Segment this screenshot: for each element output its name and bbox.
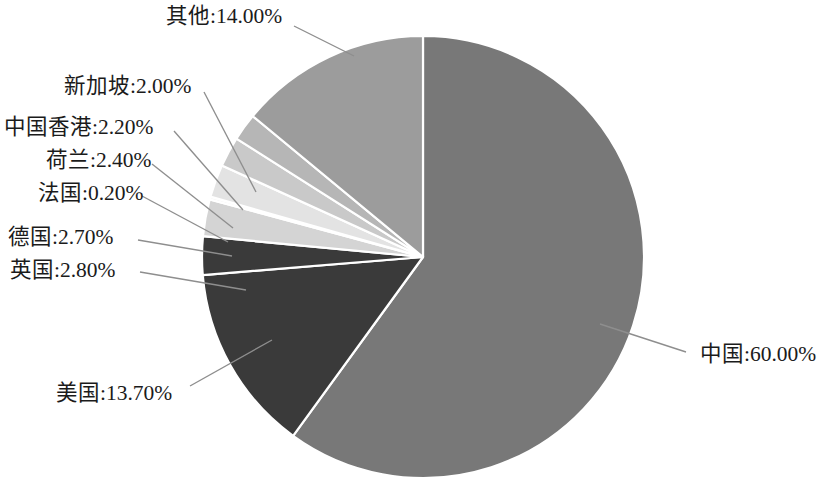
pie-label-8: 其他:14.00% <box>166 6 282 28</box>
pie-label-0: 中国:60.00% <box>700 344 816 366</box>
pie-label-1: 美国:13.70% <box>56 383 172 405</box>
leader-line-8 <box>294 26 354 56</box>
pie-label-3: 德国:2.70% <box>8 227 114 249</box>
pie-label-5: 荷兰:2.40% <box>46 150 152 172</box>
pie-label-7: 新加坡:2.00% <box>64 76 192 98</box>
pie-label-4: 法国:0.20% <box>38 183 144 205</box>
pie-chart-svg <box>0 0 822 480</box>
pie-slices-group <box>202 36 644 478</box>
pie-label-6: 中国香港:2.20% <box>4 117 154 139</box>
pie-chart-figure: 中国:60.00%美国:13.70%英国:2.80%德国:2.70%法国:0.2… <box>0 0 822 480</box>
pie-label-2: 英国:2.80% <box>10 260 116 282</box>
